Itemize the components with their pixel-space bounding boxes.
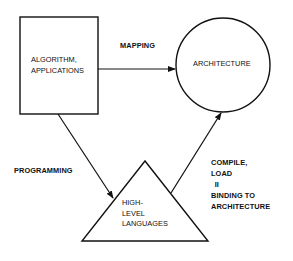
mapping-edge-label: MAPPING — [120, 40, 155, 51]
languages-node-label: HIGH- LEVEL LANGUAGES — [122, 198, 168, 230]
compile-label-line-4: BINDING TO — [211, 190, 270, 201]
languages-label-line-2: LEVEL — [122, 209, 168, 220]
programming-edge-label: PROGRAMMING — [14, 165, 73, 176]
algorithm-label-line-1: ALGORITHM, — [31, 55, 84, 66]
architecture-label-line-1: ARCHITECTURE — [193, 59, 251, 70]
compile-edge-label: COMPILE, LOAD II BINDING TO ARCHITECTURE — [211, 157, 270, 212]
compile-label-line-2: LOAD — [211, 168, 270, 179]
compile-label-line-1: COMPILE, — [211, 157, 270, 168]
languages-label-line-1: HIGH- — [122, 198, 168, 209]
compile-label-line-5: ARCHITECTURE — [211, 201, 270, 212]
languages-label-line-3: LANGUAGES — [122, 219, 168, 230]
programming-arrow — [58, 114, 113, 198]
algorithm-label-line-2: APPLICATIONS — [31, 66, 84, 77]
algorithm-node-label: ALGORITHM, APPLICATIONS — [31, 55, 84, 76]
compile-label-line-3: II — [211, 179, 270, 190]
architecture-node-label: ARCHITECTURE — [193, 59, 251, 70]
